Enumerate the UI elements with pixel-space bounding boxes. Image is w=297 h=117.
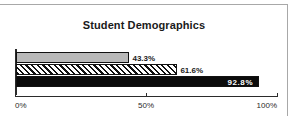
value-axis-line: [15, 96, 278, 97]
axis-tick: [277, 93, 278, 96]
bar-series-2[interactable]: 61.6%: [16, 64, 177, 75]
bar-series-3[interactable]: 92.8%: [16, 76, 259, 87]
axis-tick-label: 50%: [138, 101, 154, 110]
bar-value-label: 61.6%: [180, 66, 203, 75]
bar-row: 43.3%: [16, 52, 129, 63]
chart-title: Student Demographics: [0, 19, 288, 31]
plot-area: 43.3% 61.6% 92.8%: [15, 49, 277, 95]
axis-tick: [15, 93, 16, 96]
axis-tick-label: 100%: [257, 101, 277, 110]
axis-tick: [146, 93, 147, 96]
chart-frame: Student Demographics 43.3% 61.6% 92.8% 0…: [0, 4, 288, 116]
bar-row: 61.6%: [16, 64, 177, 75]
bar-value-label: 43.3%: [132, 54, 155, 63]
axis-tick-label: 0%: [15, 101, 27, 110]
bar-row: 92.8%: [16, 76, 259, 87]
bar-value-label: 92.8%: [227, 78, 253, 87]
bar-series-1[interactable]: 43.3%: [16, 52, 129, 63]
